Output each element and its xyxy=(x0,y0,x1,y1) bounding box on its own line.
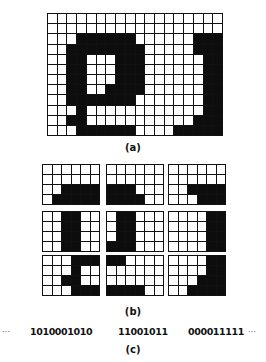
empty-cell xyxy=(145,266,154,275)
empty-cell xyxy=(91,242,100,251)
filled-cell xyxy=(126,55,135,64)
empty-cell xyxy=(155,222,164,231)
filled-cell xyxy=(213,55,222,64)
empty-cell xyxy=(136,222,145,231)
empty-cell xyxy=(155,185,164,194)
empty-cell xyxy=(97,116,106,125)
empty-cell xyxy=(58,75,67,84)
empty-cell xyxy=(179,286,188,295)
empty-cell xyxy=(43,212,52,221)
filled-cell xyxy=(207,185,216,194)
empty-cell xyxy=(58,126,67,135)
leading-ellipsis: ··· xyxy=(2,326,10,337)
empty-cell xyxy=(126,175,135,184)
empty-cell xyxy=(107,212,116,221)
filled-cell xyxy=(117,212,126,221)
filled-cell xyxy=(207,222,216,231)
filled-cell xyxy=(116,55,125,64)
empty-cell xyxy=(53,232,62,241)
empty-cell xyxy=(58,106,67,115)
filled-cell xyxy=(213,34,222,43)
filled-cell xyxy=(97,45,106,54)
empty-cell xyxy=(106,75,115,84)
empty-cell xyxy=(179,232,188,241)
empty-cell xyxy=(145,212,154,221)
empty-cell xyxy=(62,286,71,295)
empty-cell xyxy=(136,266,145,275)
filled-cell xyxy=(198,185,207,194)
filled-cell xyxy=(136,65,145,74)
empty-cell xyxy=(58,24,67,33)
empty-cell xyxy=(188,195,197,204)
filled-cell xyxy=(67,55,76,64)
empty-cell xyxy=(145,34,154,43)
empty-cell xyxy=(126,165,135,174)
empty-cell xyxy=(184,14,193,23)
filled-cell xyxy=(217,242,226,251)
empty-cell xyxy=(145,175,154,184)
empty-cell xyxy=(188,175,197,184)
filled-cell xyxy=(194,126,203,135)
empty-cell xyxy=(97,55,106,64)
empty-cell xyxy=(169,212,178,221)
filled-cell xyxy=(67,65,76,74)
empty-cell xyxy=(194,85,203,94)
empty-cell xyxy=(174,106,183,115)
filled-cell xyxy=(217,195,226,204)
empty-cell xyxy=(81,232,90,241)
trailing-ellipsis: ··· xyxy=(248,326,256,337)
filled-cell xyxy=(204,85,213,94)
filled-cell xyxy=(72,286,81,295)
filled-cell xyxy=(207,212,216,221)
empty-cell xyxy=(62,266,71,275)
filled-cell xyxy=(116,65,125,74)
empty-cell xyxy=(53,185,62,194)
empty-cell xyxy=(213,14,222,23)
empty-cell xyxy=(58,116,67,125)
panel-b-tile-6 xyxy=(168,211,226,252)
empty-cell xyxy=(155,126,164,135)
filled-cell xyxy=(62,276,71,285)
empty-cell xyxy=(188,276,197,285)
filled-cell xyxy=(213,85,222,94)
empty-cell xyxy=(136,232,145,241)
empty-cell xyxy=(136,256,145,265)
empty-cell xyxy=(53,286,62,295)
filled-cell xyxy=(204,45,213,54)
empty-cell xyxy=(169,266,178,275)
empty-cell xyxy=(155,75,164,84)
filled-cell xyxy=(87,45,96,54)
filled-cell xyxy=(67,75,76,84)
filled-cell xyxy=(72,222,81,231)
filled-cell xyxy=(72,212,81,221)
empty-cell xyxy=(117,175,126,184)
filled-cell xyxy=(126,85,135,94)
empty-cell xyxy=(198,212,207,221)
filled-cell xyxy=(72,242,81,251)
empty-cell xyxy=(145,75,154,84)
empty-cell xyxy=(87,116,96,125)
empty-cell xyxy=(145,242,154,251)
filled-cell xyxy=(116,95,125,104)
filled-cell xyxy=(87,34,96,43)
empty-cell xyxy=(43,266,52,275)
empty-cell xyxy=(184,95,193,104)
empty-cell xyxy=(174,24,183,33)
empty-cell xyxy=(97,85,106,94)
filled-cell xyxy=(91,286,100,295)
filled-cell xyxy=(62,232,71,241)
empty-cell xyxy=(155,212,164,221)
filled-cell xyxy=(217,256,226,265)
empty-cell xyxy=(81,276,90,285)
empty-cell xyxy=(126,276,135,285)
empty-cell xyxy=(126,14,135,23)
empty-cell xyxy=(145,185,154,194)
filled-cell xyxy=(116,45,125,54)
empty-cell xyxy=(184,85,193,94)
filled-cell xyxy=(194,34,203,43)
empty-cell xyxy=(43,165,52,174)
empty-cell xyxy=(81,242,90,251)
empty-cell xyxy=(77,24,86,33)
filled-cell xyxy=(117,232,126,241)
empty-cell xyxy=(165,116,174,125)
